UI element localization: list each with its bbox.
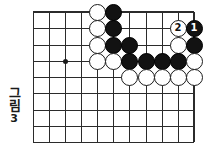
go-stone-white[interactable] [170, 37, 187, 54]
go-stone-black[interactable] [186, 37, 203, 54]
go-diagram-figure: 21 그림 3 [0, 0, 216, 164]
go-stone-white[interactable] [121, 69, 138, 86]
go-stone-black[interactable] [170, 53, 187, 70]
figure-caption-number: 3 [2, 113, 26, 124]
go-stone-white[interactable] [89, 4, 106, 21]
go-stone-black[interactable] [138, 53, 155, 70]
go-stone-white[interactable] [105, 53, 122, 70]
go-stone-black[interactable] [154, 53, 171, 70]
go-board[interactable]: 21 [0, 0, 216, 164]
stone-move-number: 1 [191, 23, 198, 33]
board-line-vertical [49, 12, 50, 142]
figure-caption: 그림 3 [2, 86, 26, 124]
go-stone-white[interactable] [186, 53, 203, 70]
go-stone-white[interactable] [89, 53, 106, 70]
go-stone-white[interactable] [89, 20, 106, 37]
go-stone-white[interactable] [154, 69, 171, 86]
go-stone-white[interactable] [138, 69, 155, 86]
board-line-vertical [33, 12, 34, 142]
board-star-point [63, 59, 68, 64]
figure-caption-label: 그림 [8, 86, 21, 112]
go-stone-black[interactable] [105, 20, 122, 37]
board-line-vertical [81, 12, 82, 142]
go-stone-white[interactable] [186, 69, 203, 86]
go-stone-black[interactable] [105, 37, 122, 54]
go-stone-white[interactable] [170, 69, 187, 86]
board-line-horizontal [33, 142, 194, 143]
go-stone-black-numbered[interactable]: 1 [186, 20, 203, 37]
stone-move-number: 2 [175, 23, 182, 33]
go-stone-white-numbered[interactable]: 2 [170, 20, 187, 37]
go-stone-black[interactable] [121, 37, 138, 54]
go-stone-white[interactable] [89, 37, 106, 54]
board-line-vertical [65, 12, 66, 142]
go-stone-black[interactable] [105, 4, 122, 21]
go-stone-black[interactable] [121, 53, 138, 70]
